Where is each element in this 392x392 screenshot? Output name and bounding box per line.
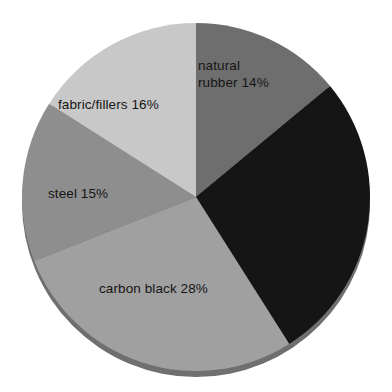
- slice-label-fabric-fillers: fabric/fillers 16%: [58, 96, 159, 113]
- slice-label-natural-rubber: natural rubber 14%: [198, 57, 269, 92]
- slice-label-natural-rubber-line2: rubber 14%: [198, 74, 269, 91]
- slice-label-steel: steel 15%: [48, 185, 108, 202]
- slice-label-carbon-black: carbon black 28%: [99, 280, 208, 297]
- pie-chart: natural rubber 14% synthetic rubber 27% …: [0, 0, 392, 392]
- slice-label-natural-rubber-line1: natural: [198, 57, 269, 74]
- slice-label-synthetic-rubber: synthetic rubber 27%: [203, 187, 332, 204]
